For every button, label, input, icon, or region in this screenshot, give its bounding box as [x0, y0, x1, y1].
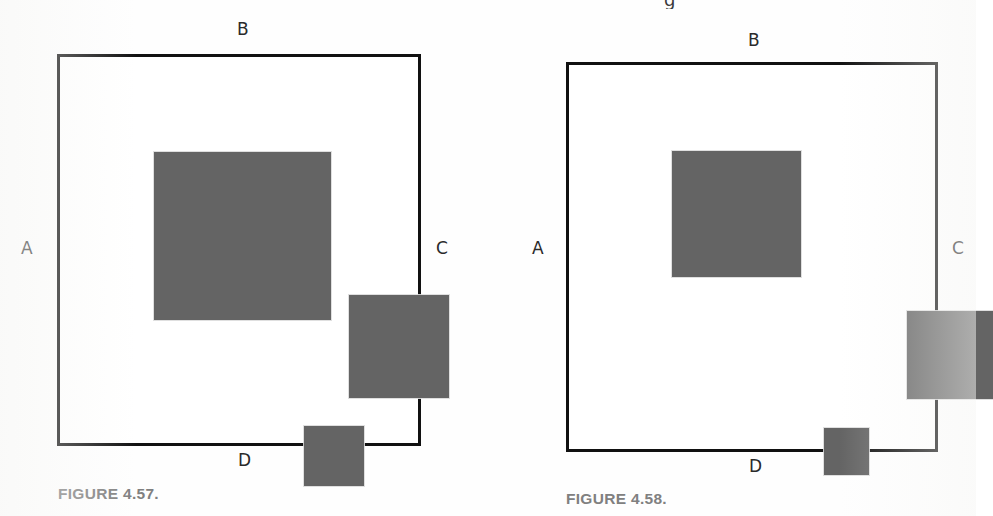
- figure-4-58-medium-swatch: [907, 311, 993, 399]
- figure-4-58-caption: FIGURE 4.58.: [566, 490, 667, 508]
- figure-4-57-caption: FIGURE 4.57.: [58, 485, 159, 503]
- figure-4-58-label-d: D: [749, 458, 763, 475]
- figure-4-57-label-b: B: [237, 21, 249, 38]
- cut-off-text-glyph: g: [664, 0, 675, 9]
- figure-4-57-label-c: C: [436, 240, 448, 257]
- figure-4-57-frame: [57, 54, 421, 446]
- figure-4-58-frame: [566, 62, 938, 452]
- figure-4-58-label-b: B: [748, 32, 760, 49]
- figure-4-57: A B C D FIGURE 4.57.: [0, 0, 488, 516]
- figure-4-58: g A B C D FIGURE 4.58.: [488, 0, 976, 516]
- figure-4-58-large-swatch: [672, 151, 801, 277]
- figure-4-57-small-swatch: [304, 426, 364, 486]
- figure-4-58-label-c: C: [952, 240, 964, 257]
- figure-4-58-small-swatch: [824, 428, 869, 475]
- figure-4-58-label-a: A: [532, 240, 544, 257]
- figure-4-57-label-d: D: [238, 452, 252, 469]
- figure-4-57-medium-swatch: [349, 295, 449, 398]
- figure-4-57-label-a: A: [21, 240, 33, 257]
- figure-4-57-large-swatch: [154, 152, 331, 320]
